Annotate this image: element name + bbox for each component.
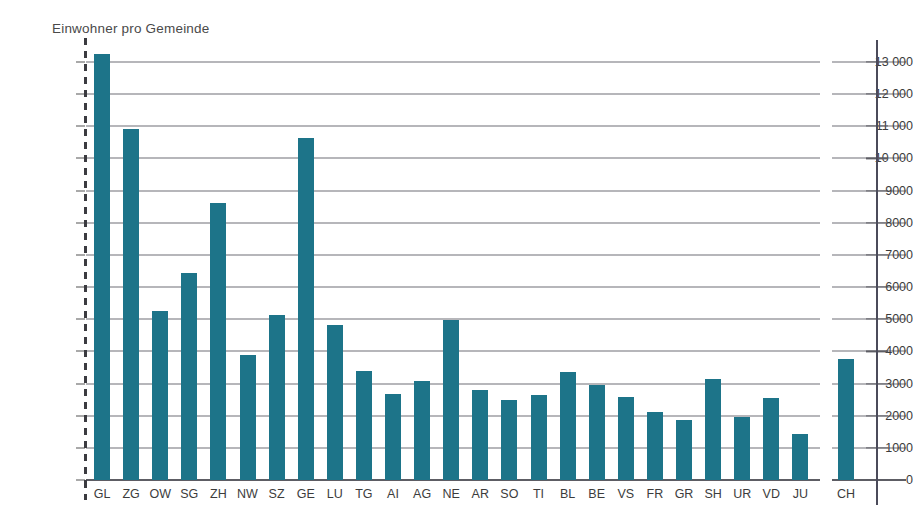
x-axis-label-total: CH xyxy=(831,487,861,501)
bar xyxy=(356,371,372,480)
x-axis-label: NE xyxy=(436,487,466,501)
bar xyxy=(240,355,256,480)
bar xyxy=(531,395,547,480)
x-axis-label: AI xyxy=(378,487,408,501)
gridline xyxy=(86,222,820,223)
x-axis-label: SG xyxy=(174,487,204,501)
bar xyxy=(676,420,692,480)
x-axis-label: BE xyxy=(582,487,612,501)
bar xyxy=(501,400,517,480)
bar xyxy=(763,398,779,480)
x-axis-label: AR xyxy=(465,487,495,501)
plot-area: 010002000300040005000600070008000900010 … xyxy=(0,0,913,526)
gridline xyxy=(86,158,820,159)
bar xyxy=(327,325,343,480)
bar xyxy=(385,394,401,480)
x-axis-label: JU xyxy=(785,487,815,501)
x-axis-label: VS xyxy=(611,487,641,501)
x-axis-label: UR xyxy=(727,487,757,501)
bar xyxy=(210,203,226,480)
bar xyxy=(94,54,110,480)
x-axis-label: TG xyxy=(349,487,379,501)
gridline xyxy=(86,126,820,127)
x-axis-label: SH xyxy=(698,487,728,501)
bar xyxy=(792,434,808,480)
bar xyxy=(152,311,168,480)
bar xyxy=(181,273,197,480)
gridline xyxy=(86,254,820,255)
x-axis-label: SO xyxy=(494,487,524,501)
x-axis-label: FR xyxy=(640,487,670,501)
bar xyxy=(560,372,576,480)
x-axis-label: NW xyxy=(233,487,263,501)
bar-total xyxy=(838,359,854,480)
bar xyxy=(298,138,314,480)
x-axis-label: VD xyxy=(756,487,786,501)
x-axis-label: ZG xyxy=(116,487,146,501)
bar xyxy=(472,390,488,480)
bar xyxy=(443,320,459,480)
bar xyxy=(618,397,634,480)
x-axis-label: ZH xyxy=(203,487,233,501)
x-axis-label: AG xyxy=(407,487,437,501)
bar xyxy=(123,129,139,480)
bar xyxy=(269,315,285,480)
x-axis-label: GR xyxy=(669,487,699,501)
gridline xyxy=(86,94,820,95)
gridline xyxy=(86,190,820,191)
total-axis-line xyxy=(876,40,878,505)
x-axis-label: TI xyxy=(524,487,554,501)
x-axis-label: GE xyxy=(291,487,321,501)
bar xyxy=(414,381,430,480)
bar xyxy=(705,379,721,480)
y-axis-dashed-line xyxy=(84,38,87,484)
bar xyxy=(589,385,605,480)
x-axis-label: GL xyxy=(87,487,117,501)
bar xyxy=(734,417,750,480)
x-axis-label: BL xyxy=(553,487,583,501)
bar-chart: Einwohner pro Gemeinde 01000200030004000… xyxy=(0,0,913,526)
x-axis-label: OW xyxy=(145,487,175,501)
x-axis-label: LU xyxy=(320,487,350,501)
x-axis-label: SZ xyxy=(262,487,292,501)
bar xyxy=(647,412,663,480)
gridline xyxy=(86,62,820,63)
